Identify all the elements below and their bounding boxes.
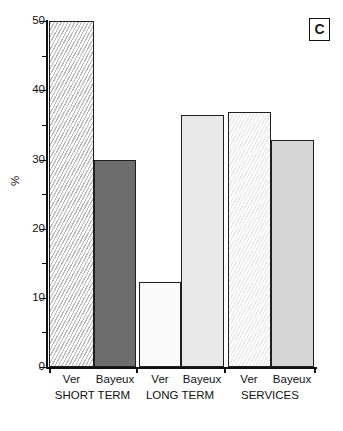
group-label-short-term: SHORT TERM xyxy=(44,389,141,402)
y-tick-minor-5 xyxy=(42,332,47,333)
bar-short-term-ver[interactable] xyxy=(49,21,94,367)
bar-long-term-ver[interactable] xyxy=(139,282,181,367)
group-label-long-term: LONG TERM xyxy=(134,389,226,402)
y-tick-minor-45 xyxy=(42,56,47,57)
bar-short-term-bayeux[interactable] xyxy=(94,160,136,367)
bar-chart-figure: C % 50 40 30 20 10 0 xyxy=(0,0,343,431)
bar-long-term-bayeux[interactable] xyxy=(181,115,224,367)
bar-label-services-ver: Ver xyxy=(227,373,271,386)
bar-label-long-term-ver: Ver xyxy=(138,373,182,386)
bar-services-ver[interactable] xyxy=(228,112,271,367)
y-axis-line xyxy=(46,20,48,368)
plot-area: % 50 40 30 20 10 0 Ver xyxy=(0,0,343,431)
y-tick-minor-35 xyxy=(42,125,47,126)
y-axis-title: % xyxy=(9,176,21,186)
y-tick-label-30: 30 xyxy=(5,154,45,166)
bar-label-services-bayeux: Bayeux xyxy=(269,373,315,386)
x-axis-line xyxy=(46,367,317,369)
y-tick-minor-25 xyxy=(42,194,47,195)
group-label-services: SERVICES xyxy=(224,389,316,402)
y-tick-minor-15 xyxy=(42,263,47,264)
bar-label-short-term-ver: Ver xyxy=(49,373,94,386)
y-tick-label-20: 20 xyxy=(5,223,45,235)
bar-label-long-term-bayeux: Bayeux xyxy=(179,373,225,386)
y-tick-label-10: 10 xyxy=(5,292,45,304)
y-tick-label-50: 50 xyxy=(5,15,45,27)
y-tick-label-40: 40 xyxy=(5,84,45,96)
y-tick-label-0: 0 xyxy=(5,361,45,373)
bar-label-short-term-bayeux: Bayeux xyxy=(92,373,138,386)
bar-services-bayeux[interactable] xyxy=(271,140,314,367)
